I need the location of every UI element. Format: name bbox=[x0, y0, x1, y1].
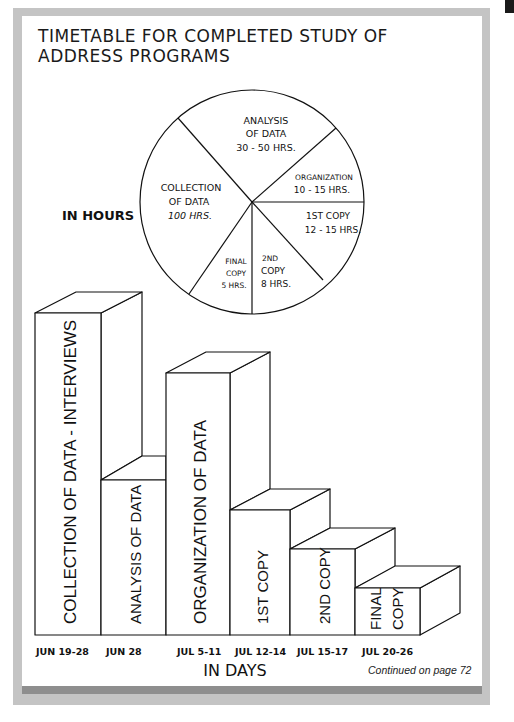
x-label-jul-5-11: JUL 5-11 bbox=[176, 646, 221, 657]
pie-slice-final-copy-label: FINAL bbox=[225, 257, 247, 266]
pie-unit-label: IN HOURS bbox=[62, 208, 134, 223]
pie-slice-2nd-copy-label-2: COPY bbox=[261, 266, 286, 276]
pie-slice-analysis-label-2: OF DATA bbox=[246, 128, 287, 139]
bar-organization-label: ORGANIZATION OF DATA bbox=[191, 419, 210, 624]
bar-final-copy-front bbox=[355, 588, 420, 635]
pie-slice-analysis-value: 30 - 50 HRS. bbox=[236, 142, 295, 153]
x-label-jun-19-28: JUN 19-28 bbox=[35, 646, 89, 657]
pie-slice-final-copy-value: 5 HRS. bbox=[221, 281, 246, 290]
bar-collection-label: COLLECTION OF DATA - INTERVIEWS bbox=[61, 320, 80, 624]
x-axis-title: IN DAYS bbox=[203, 661, 266, 680]
bar-collection-side bbox=[101, 292, 142, 480]
chart-canvas: IN HOURS ANALYSIS OF DATA 30 - 50 HRS. O… bbox=[0, 0, 514, 722]
x-label-jul-12-14: JUL 12-14 bbox=[234, 646, 286, 657]
pie-slice-organization-value: 10 - 15 HRS. bbox=[294, 185, 350, 195]
pie-slice-collection-value: 100 HRS. bbox=[168, 210, 212, 221]
continued-note: Continued on page 72 bbox=[368, 664, 471, 676]
x-label-jul-20-26: JUL 20-26 bbox=[361, 646, 413, 657]
x-axis-labels: JUN 19-28 JUN 28 JUL 5-11 JUL 12-14 JUL … bbox=[35, 646, 413, 657]
pie-slice-2nd-copy-label: 2ND bbox=[262, 254, 278, 263]
pie-slice-1st-copy-label: 1ST COPY bbox=[306, 211, 350, 221]
pie-slice-2nd-copy-value: 8 HRS. bbox=[261, 279, 291, 289]
bar-organization-side bbox=[230, 352, 270, 510]
bar-chart bbox=[35, 292, 460, 635]
pie-slice-collection-label-2: OF DATA bbox=[169, 196, 210, 207]
pie-slice-final-copy-label-2: COPY bbox=[226, 269, 246, 278]
pie-slice-analysis-label: ANALYSIS bbox=[244, 115, 289, 126]
pie-slice-1st-copy-value: 12 - 15 HRS. bbox=[305, 225, 361, 235]
x-label-jul-15-17: JUL 15-17 bbox=[296, 646, 348, 657]
pie-slice-final-copy: FINAL COPY 5 HRS. bbox=[221, 257, 247, 290]
x-label-jun-28: JUN 28 bbox=[105, 646, 142, 657]
bar-analysis-label: ANALYSIS OF DATA bbox=[127, 485, 144, 624]
pie-slice-collection-label: COLLECTION bbox=[161, 182, 222, 193]
bar-1st-copy-label: 1ST COPY bbox=[254, 550, 271, 624]
bar-final-copy-label-2: COPY bbox=[389, 587, 406, 630]
bar-2nd-copy-label: 2ND COPY bbox=[316, 547, 333, 624]
pie-slice-organization-label: ORGANIZATION bbox=[295, 173, 353, 182]
bar-final-copy-label-1: FINAL bbox=[367, 587, 384, 630]
